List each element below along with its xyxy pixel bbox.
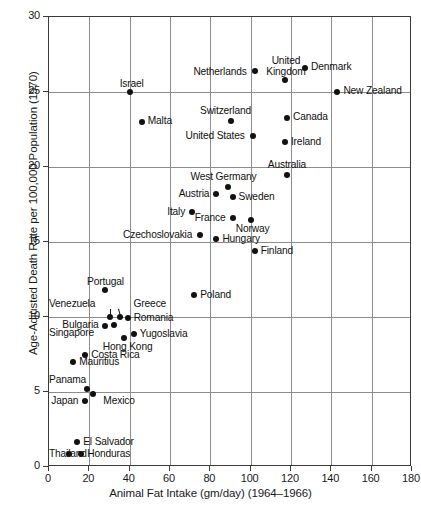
data-point-label: Switzerland: [166, 106, 286, 117]
y-axis-tick-label: 25: [18, 84, 40, 96]
x-axis-tick-label: 0: [28, 472, 68, 484]
data-point[interactable]: [197, 232, 203, 238]
gridline-vertical: [210, 17, 211, 465]
data-point[interactable]: [78, 451, 84, 457]
data-point[interactable]: [111, 322, 117, 328]
data-point[interactable]: [90, 391, 96, 397]
x-axis-tick: [88, 466, 89, 471]
plot-area: IsraelMaltaNetherlandsUnited KingdomDenm…: [48, 16, 411, 466]
data-point[interactable]: [334, 89, 340, 95]
data-point-label: West Germany: [163, 172, 283, 183]
data-point[interactable]: [74, 439, 80, 445]
data-point-label: Singapore: [49, 328, 89, 339]
data-point-label: Portugal: [45, 277, 165, 288]
data-point[interactable]: [282, 77, 288, 83]
x-axis-tick-label: 20: [68, 472, 108, 484]
x-axis-tick-label: 160: [351, 472, 391, 484]
data-point-label: Mexico: [103, 396, 134, 407]
gridline-vertical: [331, 17, 332, 465]
data-point[interactable]: [250, 133, 256, 139]
data-point[interactable]: [225, 184, 231, 190]
y-axis-tick-label: 0: [18, 459, 40, 471]
data-point-label: United States: [49, 131, 245, 142]
data-point[interactable]: [82, 398, 88, 404]
y-axis-tick: [43, 16, 48, 17]
data-point[interactable]: [70, 359, 76, 365]
x-axis-tick-label: 40: [109, 472, 149, 484]
x-axis-tick: [129, 466, 130, 471]
data-point-label: Poland: [200, 290, 231, 301]
data-point-label: Ireland: [291, 137, 321, 148]
data-point[interactable]: [191, 292, 197, 298]
x-axis-tick: [411, 466, 412, 471]
data-point-label: Mauritius: [79, 357, 119, 368]
y-axis-tick: [43, 466, 48, 467]
data-point[interactable]: [284, 115, 290, 121]
gridline-horizontal: [49, 317, 410, 318]
y-axis-tick-label: 15: [18, 234, 40, 246]
data-point-label: Honduras: [87, 449, 130, 460]
data-point-label: New Zealand: [343, 86, 401, 97]
data-point[interactable]: [102, 287, 108, 293]
data-point-label: Israel: [72, 79, 192, 90]
data-point[interactable]: [213, 191, 219, 197]
x-axis-tick: [209, 466, 210, 471]
data-point[interactable]: [125, 315, 131, 321]
figure-caption: [10, 501, 410, 510]
data-point-label: Czechoslovakia: [49, 230, 192, 241]
data-point-label: Malta: [148, 116, 172, 127]
x-axis-tick: [290, 466, 291, 471]
x-axis-tick: [169, 466, 170, 471]
y-axis-tick-label: 5: [18, 384, 40, 396]
x-axis-tick-label: 100: [230, 472, 270, 484]
data-point[interactable]: [117, 314, 123, 320]
data-point-label: Yugoslavia: [140, 329, 188, 340]
data-point-label: Thailand: [49, 449, 62, 460]
data-point-label: Denmark: [311, 62, 351, 73]
x-axis-tick-label: 120: [270, 472, 310, 484]
y-axis-tick: [43, 241, 48, 242]
data-point[interactable]: [252, 248, 258, 254]
x-axis-tick: [330, 466, 331, 471]
data-point[interactable]: [282, 139, 288, 145]
data-point-label: Australia: [227, 160, 347, 171]
data-point-label: Venezuela: [49, 299, 88, 310]
y-axis-tick: [43, 91, 48, 92]
data-point-label: Canada: [293, 112, 328, 123]
y-axis-tick-label: 10: [18, 309, 40, 321]
y-axis-tick: [43, 316, 48, 317]
gridline-vertical: [291, 17, 292, 465]
x-axis-tick: [250, 466, 251, 471]
y-axis-tick: [43, 166, 48, 167]
x-axis-tick: [48, 466, 49, 471]
data-point-label: Japan: [49, 396, 78, 407]
y-axis-tick-label: 20: [18, 159, 40, 171]
x-axis-title: Animal Fat Intake (gm/day) (1964–1966): [0, 487, 421, 499]
data-point-label: Italy: [49, 207, 185, 218]
data-point[interactable]: [230, 194, 236, 200]
scatter-plot-figure: IsraelMaltaNetherlandsUnited KingdomDenm…: [0, 0, 421, 510]
y-axis-tick: [43, 391, 48, 392]
data-point-label: Sweden: [239, 192, 275, 203]
data-point-label: Finland: [261, 246, 293, 257]
data-point[interactable]: [131, 331, 137, 337]
y-axis-tick-label: 30: [18, 9, 40, 21]
data-point[interactable]: [127, 89, 133, 95]
data-point[interactable]: [107, 314, 113, 320]
data-point-label: Netherlands: [49, 67, 247, 78]
data-point-label: Romania: [134, 313, 174, 324]
x-axis-tick-label: 60: [149, 472, 189, 484]
data-point[interactable]: [228, 118, 234, 124]
x-axis-tick-label: 180: [391, 472, 421, 484]
data-point[interactable]: [248, 217, 254, 223]
data-point-label: Greece: [134, 299, 167, 310]
data-point[interactable]: [102, 323, 108, 329]
x-axis-tick-label: 140: [310, 472, 350, 484]
data-point[interactable]: [284, 172, 290, 178]
x-axis-tick-label: 80: [189, 472, 229, 484]
data-point-label: Panama: [49, 375, 80, 386]
data-point-label: El Salvador: [83, 437, 133, 448]
data-point-label: Hungary: [222, 234, 259, 245]
data-point[interactable]: [230, 215, 236, 221]
data-point[interactable]: [139, 119, 145, 125]
